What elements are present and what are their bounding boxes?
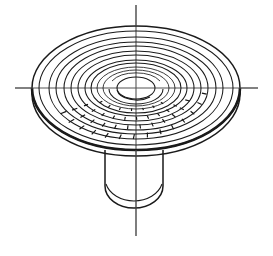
technical-drawing-figure: Engineering line drawing of a round mush… (0, 0, 273, 256)
line-drawing-canvas (0, 0, 273, 256)
